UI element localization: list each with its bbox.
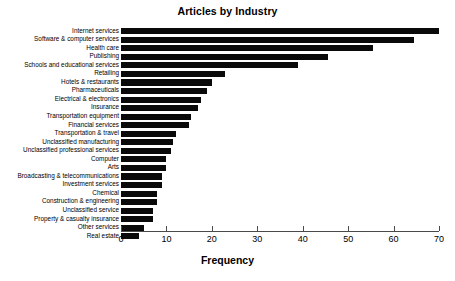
category-label: Property & casualty insurance [34, 215, 119, 224]
chart-title: Articles by Industry [0, 5, 455, 17]
category-label: Transportation equipment [46, 112, 119, 121]
x-tick [439, 226, 440, 231]
category-label: Unclassified manufacturing [42, 138, 119, 147]
plot-area: Internet servicesSoftware & computer ser… [0, 27, 455, 227]
bar [121, 88, 207, 94]
category-label: Insurance [91, 103, 119, 112]
bar-chart: Articles by Industry Internet servicesSo… [0, 0, 455, 281]
bar [121, 54, 328, 60]
bar [121, 122, 189, 128]
x-tick-label: 50 [343, 234, 353, 244]
bar [121, 182, 162, 188]
category-label: Transportation & travel [55, 129, 119, 138]
category-label: Schools and educational services [24, 61, 119, 70]
x-tick-label: 60 [389, 234, 399, 244]
category-label: Other services [78, 223, 119, 232]
bar [121, 208, 153, 214]
bar [121, 199, 157, 205]
x-tick [121, 226, 122, 231]
x-tick-label: 30 [252, 234, 262, 244]
bar [121, 37, 414, 43]
bar-row: Computer [0, 155, 455, 164]
x-tick [257, 226, 258, 231]
bar [121, 28, 439, 34]
category-label: Health care [86, 44, 119, 53]
bar [121, 114, 191, 120]
category-label: Chemical [92, 189, 119, 198]
category-label: Unclassified service [63, 206, 119, 215]
category-label: Financial services [68, 121, 119, 130]
x-tick [394, 226, 395, 231]
category-label: Computer [91, 155, 119, 164]
x-axis-line [121, 231, 439, 232]
x-tick [303, 226, 304, 231]
bar [121, 62, 298, 68]
category-label: Hotels & restaurants [61, 78, 119, 87]
x-tick-label: 40 [298, 234, 308, 244]
bar [121, 173, 162, 179]
category-label: Retailing [94, 69, 119, 78]
bar [121, 131, 176, 137]
x-tick-label: 0 [118, 234, 123, 244]
bar [121, 139, 173, 145]
bar-row: Software & computer services [0, 36, 455, 45]
x-tick [348, 226, 349, 231]
bar [121, 216, 153, 222]
category-label: Arts [108, 163, 119, 172]
x-tick [166, 226, 167, 231]
bar [121, 79, 212, 85]
category-label: Publishing [90, 52, 120, 61]
category-label: Investment services [63, 180, 119, 189]
bar-row: Health care [0, 44, 455, 53]
bar [121, 225, 144, 231]
category-label: Electrical & electronics [55, 95, 119, 104]
bar-row: Property & casualty insurance [0, 215, 455, 224]
category-label: Pharmaceuticals [72, 86, 119, 95]
x-tick [212, 226, 213, 231]
category-label: Broadcasting & telecommunications [17, 172, 119, 181]
bar [121, 233, 139, 239]
bar-row: Schools and educational services [0, 61, 455, 70]
category-label: Real estate [87, 232, 119, 241]
bar [121, 156, 166, 162]
x-tick-label: 20 [207, 234, 217, 244]
bar-row: Electrical & electronics [0, 95, 455, 104]
bar [121, 165, 166, 171]
bar-row: Investment services [0, 181, 455, 190]
x-tick-label: 10 [161, 234, 171, 244]
bar [121, 71, 225, 77]
bar [121, 97, 201, 103]
bar-row: Real estate [0, 232, 455, 241]
category-label: Software & computer services [34, 35, 119, 44]
category-label: Unclassified professional services [23, 146, 119, 155]
category-label: Internet services [72, 27, 119, 36]
bar [121, 191, 157, 197]
bar [121, 105, 198, 111]
x-tick-label: 70 [434, 234, 444, 244]
x-axis-title: Frequency [0, 254, 455, 266]
bar [121, 45, 373, 51]
bar-row: Unclassified professional services [0, 147, 455, 156]
bar-row: Hotels & restaurants [0, 78, 455, 87]
bar [121, 148, 171, 154]
category-label: Construction & engineering [42, 197, 119, 206]
